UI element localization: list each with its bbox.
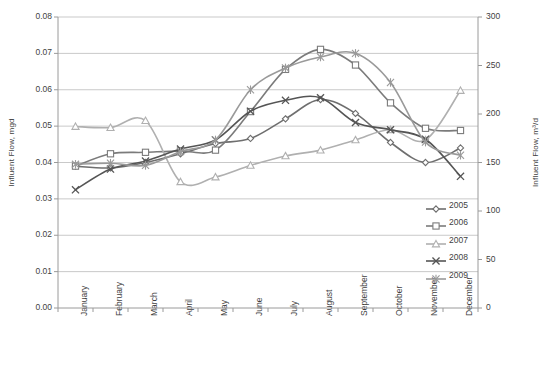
legend-label-2008: 2008 [449, 252, 468, 262]
series-legend: 20052006200720082009 [425, 196, 483, 284]
legend-key-square-icon [425, 217, 447, 227]
legend-item-2009[interactable]: 2009 [425, 266, 483, 284]
legend-key-asterisk-icon [425, 270, 447, 280]
legend-label-2007: 2007 [449, 235, 468, 245]
legend-item-2005[interactable]: 2005 [425, 196, 483, 214]
legend-key-triangle-icon [425, 235, 447, 245]
legend-label-2005: 2005 [449, 200, 468, 210]
series-2007 [72, 87, 464, 186]
legend-item-2006[interactable]: 2006 [425, 214, 483, 232]
legend-key-cross-icon [425, 252, 447, 262]
legend-item-2008[interactable]: 2008 [425, 249, 483, 267]
legend-label-2009: 2009 [449, 270, 468, 280]
legend-key-diamond-icon [425, 200, 447, 210]
gridlines [58, 17, 478, 308]
legend-label-2006: 2006 [449, 217, 468, 227]
legend-item-2007[interactable]: 2007 [425, 231, 483, 249]
